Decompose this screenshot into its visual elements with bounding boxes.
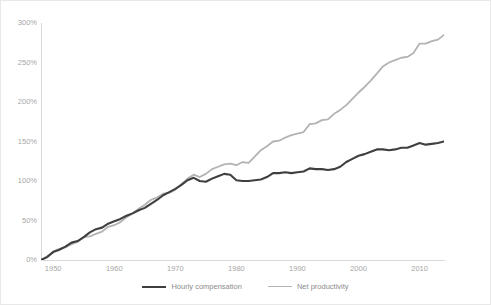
chart-legend: Hourly compensationNet productivity (1, 282, 490, 291)
series-line-hourly-compensation (41, 142, 444, 261)
legend-item[interactable]: Net productivity (268, 282, 349, 291)
legend-item[interactable]: Hourly compensation (142, 282, 241, 291)
legend-swatch (268, 286, 292, 287)
legend-label: Hourly compensation (171, 282, 241, 291)
legend-label: Net productivity (297, 282, 349, 291)
legend-swatch (142, 286, 166, 288)
plot-area (41, 23, 444, 260)
chart-card: 300%250%200%150%100%50%0% 19501960197019… (0, 0, 491, 305)
x-tick-label: 1970 (155, 265, 195, 273)
x-tick-label: 1960 (94, 265, 134, 273)
x-tick-label: 2010 (400, 265, 440, 273)
x-tick-label: 1950 (33, 265, 73, 273)
x-tick-label: 1980 (216, 265, 256, 273)
x-tick-label: 2000 (339, 265, 379, 273)
series-line-net-productivity (41, 35, 444, 260)
series-lines (41, 23, 444, 260)
x-tick-label: 1990 (277, 265, 317, 273)
